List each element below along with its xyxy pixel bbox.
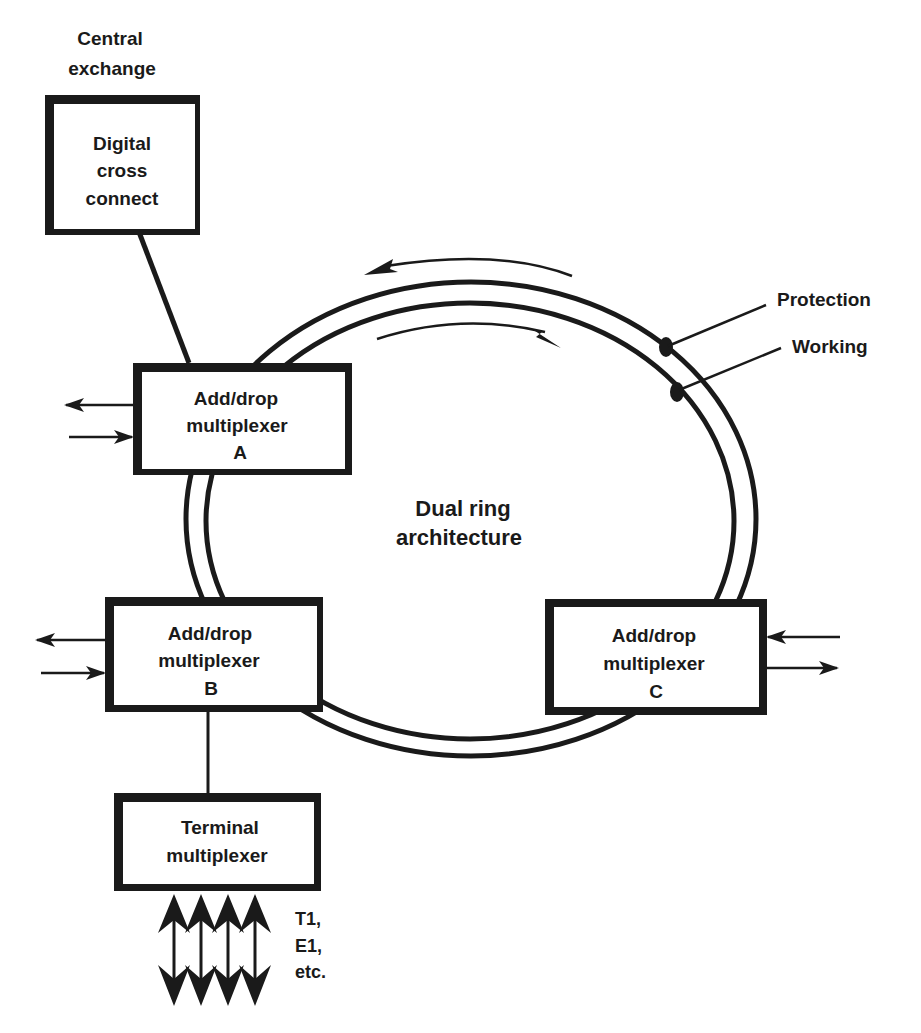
central-exchange-caption-line1: Central bbox=[77, 28, 142, 49]
tributary-label-line3: etc. bbox=[295, 962, 326, 982]
digital-cross-connect-box[interactable]: Digital cross connect bbox=[45, 95, 200, 235]
terminal-mux-line2: multiplexer bbox=[166, 845, 268, 866]
adm-c-line1: Add/drop bbox=[612, 625, 696, 646]
dual-ring-diagram: Protection Working Dual ring architectur… bbox=[0, 0, 921, 1033]
adm-a-line3: A bbox=[233, 442, 247, 463]
dcc-line3: connect bbox=[86, 188, 160, 209]
terminal-mux-line1: Terminal bbox=[181, 817, 259, 838]
tributary-label-line2: E1, bbox=[295, 936, 322, 956]
protection-label: Protection bbox=[777, 289, 871, 310]
center-label-line2: architecture bbox=[396, 525, 522, 550]
tributary-double-arrow-icon bbox=[185, 894, 217, 1006]
adm-b-line3: B bbox=[204, 678, 218, 699]
adm-c-box[interactable]: Add/drop multiplexer C bbox=[545, 599, 767, 715]
adm-a-line2: multiplexer bbox=[186, 415, 288, 436]
central-exchange-caption-line2: exchange bbox=[68, 58, 156, 79]
adm-a-box[interactable]: Add/drop multiplexer A bbox=[133, 363, 352, 475]
working-label: Working bbox=[792, 336, 868, 357]
tributary-arrows bbox=[158, 894, 271, 1006]
dcc-to-adm-a-link bbox=[139, 232, 189, 363]
adm-b-line2: multiplexer bbox=[158, 650, 260, 671]
tributary-label-line1: T1, bbox=[295, 909, 321, 929]
adm-c-line3: C bbox=[649, 681, 663, 702]
adm-b-line1: Add/drop bbox=[168, 623, 252, 644]
dcc-line1: Digital bbox=[93, 133, 151, 154]
adm-b-box[interactable]: Add/drop multiplexer B bbox=[105, 597, 323, 712]
adm-a-line1: Add/drop bbox=[194, 388, 278, 409]
counterclockwise-arrowhead-icon bbox=[364, 259, 398, 275]
terminal-multiplexer-box[interactable]: Terminal multiplexer bbox=[114, 793, 321, 891]
tributary-double-arrow-icon bbox=[239, 894, 271, 1006]
clockwise-arrowhead-icon bbox=[532, 329, 561, 348]
counterclockwise-arrow bbox=[386, 259, 572, 276]
center-label-line1: Dual ring bbox=[415, 496, 510, 521]
tributary-double-arrow-icon bbox=[158, 894, 190, 1006]
adm-c-line2: multiplexer bbox=[603, 653, 705, 674]
clockwise-arrow bbox=[377, 323, 545, 339]
dcc-line2: cross bbox=[97, 160, 148, 181]
protection-marker bbox=[659, 305, 766, 357]
tributary-double-arrow-icon bbox=[212, 894, 244, 1006]
